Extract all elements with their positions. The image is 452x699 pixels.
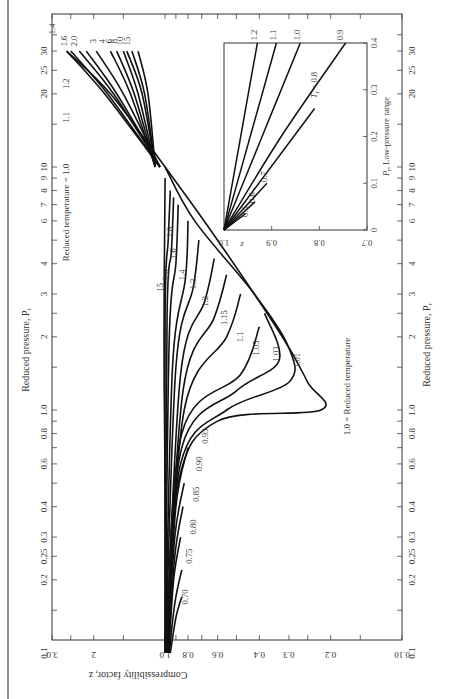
inset-z-tick-label: 1.0 bbox=[219, 238, 230, 248]
main-ylabel: Compressibility factor, z bbox=[88, 670, 187, 681]
left-pr-tick-label: 0.2 bbox=[39, 574, 49, 585]
curve-label: 0.75 bbox=[184, 549, 194, 564]
curve-label: 15 bbox=[155, 283, 165, 292]
left-pr-tick-label: 10 bbox=[39, 162, 49, 172]
z-tick-label: 0.6 bbox=[211, 650, 223, 660]
left-pr-tick-label: 9 bbox=[39, 175, 49, 180]
z-tick-label: 0.10 bbox=[394, 650, 410, 660]
right-pr-tick-label: 25 bbox=[407, 65, 417, 75]
high-pr-curve-label: 1.4 bbox=[47, 23, 57, 34]
high-pr-curve-label: 2.0 bbox=[69, 36, 79, 47]
inset-ylabel: z bbox=[239, 239, 244, 248]
tr-curve-1.2 bbox=[166, 259, 214, 653]
z-tick-label: 0.2 bbox=[325, 650, 336, 660]
right-pr-tick-label: 6 bbox=[407, 218, 417, 223]
z-tick-label: 0.8 bbox=[182, 650, 194, 660]
main-xlabel-right: Reduced pressure, Pr bbox=[421, 302, 434, 386]
high-pr-curve-label: 1.1 bbox=[61, 112, 71, 123]
high-pr-curve-label: 1.2 bbox=[61, 78, 71, 89]
left-pr-tick-label: 20 bbox=[39, 89, 49, 99]
curve-label: 0.70 bbox=[180, 590, 190, 605]
z-tick-label: 0.3 bbox=[283, 650, 295, 660]
right-pr-tick-label: 7 bbox=[407, 202, 417, 207]
left-pr-tick-label: 7 bbox=[39, 202, 49, 207]
low-t-annotation: 1.0 = Reduced temperature bbox=[342, 338, 352, 436]
inset-pr-tick-label: 0.4 bbox=[369, 37, 379, 48]
right-pr-tick-label: 20 bbox=[407, 89, 417, 99]
inset-curve-label: 0.9 bbox=[335, 30, 345, 41]
high-pr-curve-label: 1.6 bbox=[59, 36, 69, 47]
left-pr-tick-label: 0.4 bbox=[39, 501, 49, 513]
curve-label: 1.4 bbox=[177, 269, 187, 280]
inset-xlabel: Pr, Low-pressure range bbox=[381, 97, 392, 177]
left-pr-tick-label: 8 bbox=[39, 188, 49, 193]
curve-label: 1.01 bbox=[292, 353, 302, 368]
inset-z-tick-label: 0.7 bbox=[362, 238, 373, 248]
curve-label: 1.2 bbox=[200, 296, 210, 307]
inset-curve-label: 0.7 bbox=[259, 171, 269, 182]
curve-label: 1.8 bbox=[165, 227, 175, 238]
inset-pr-tick-label: 0.1 bbox=[369, 178, 379, 189]
left-pr-tick-label: 3 bbox=[39, 291, 49, 296]
inset-curve-label: 0.5 bbox=[240, 206, 250, 217]
curve-label: 0.95 bbox=[200, 429, 210, 444]
curve-label: 1.05 bbox=[251, 341, 261, 356]
main-xlabel-left: Reduced pressure, Pr bbox=[20, 307, 33, 391]
right-pr-tick-label: 0.6 bbox=[407, 458, 417, 470]
curve-label: 1.1 bbox=[235, 332, 245, 343]
left-pr-tick-label: 4 bbox=[39, 261, 49, 266]
inset-tr-annotation: Tr = 0.8 bbox=[309, 72, 320, 98]
curve-label: 2.0 bbox=[161, 270, 171, 281]
inset-low-pressure-plot: 1.00.90.80.700.10.20.30.4Pr, Low-pressur… bbox=[219, 30, 392, 248]
inset-pr-tick-label: 0.3 bbox=[369, 84, 379, 95]
left-pr-tick-label: 1.0 bbox=[39, 404, 49, 416]
right-pr-tick-label: 3 bbox=[407, 291, 417, 296]
z-tick-label: 2 bbox=[91, 650, 96, 660]
curve-label: 0.80 bbox=[188, 520, 198, 535]
right-pr-tick-label: 0.2 bbox=[407, 574, 417, 585]
high-pr-curve-label: 15 bbox=[122, 37, 132, 46]
curve-label: 1.6 bbox=[168, 248, 178, 259]
left-pr-tick-label: 2 bbox=[39, 335, 49, 340]
left-pr-tick-label: 0.6 bbox=[39, 458, 49, 470]
right-pr-tick-label: 0.4 bbox=[407, 501, 417, 513]
right-pr-tick-label: 9 bbox=[407, 175, 417, 180]
curve-label: 1.15 bbox=[219, 310, 229, 325]
left-pr-tick-label: 0.8 bbox=[39, 427, 49, 439]
inset-curve-label: 1.0 bbox=[292, 30, 302, 41]
curve-label: 1.03 bbox=[271, 347, 281, 362]
curve-label: 0.90 bbox=[194, 456, 204, 471]
inset-curve-label: 1.1 bbox=[268, 30, 278, 41]
inset-curve-label: 1.2 bbox=[249, 30, 259, 41]
z-tick-label: 3.0 bbox=[46, 650, 58, 660]
inset-z-tick-label: 0.9 bbox=[266, 238, 277, 248]
left-pr-tick-label: 30 bbox=[39, 46, 49, 56]
inset-curve-label: 0.6 bbox=[247, 192, 257, 203]
inset-pr-tick-label: 0.2 bbox=[369, 131, 379, 142]
left-pr-tick-label: 25 bbox=[39, 65, 49, 75]
inset-pr-tick-label: 0 bbox=[369, 228, 379, 232]
right-pr-tick-label: 8 bbox=[407, 188, 417, 193]
inset-z-tick-label: 0.8 bbox=[314, 238, 325, 248]
left-pr-tick-label: 6 bbox=[39, 218, 49, 223]
right-pr-tick-label: 0.3 bbox=[407, 531, 417, 543]
right-pr-tick-label: 0.8 bbox=[407, 427, 417, 439]
right-pr-tick-label: 10 bbox=[407, 162, 417, 172]
right-pr-tick-label: 30 bbox=[407, 46, 417, 56]
curve-label: 0.85 bbox=[191, 487, 201, 502]
curve-label: 1.3 bbox=[188, 279, 198, 290]
left-pr-tick-label: 0.3 bbox=[39, 531, 49, 543]
left-pr-tick-label: 0.25 bbox=[39, 548, 49, 564]
right-pr-tick-label: 0.25 bbox=[407, 548, 417, 564]
compressibility-chart: 0.10.10.20.20.250.250.30.30.40.40.60.60.… bbox=[0, 0, 452, 699]
right-pr-tick-label: 4 bbox=[407, 261, 417, 266]
z-tick-label: 0.4 bbox=[253, 650, 265, 660]
right-pr-tick-label: 1.0 bbox=[407, 404, 417, 416]
high-pr-annotation: Reduced temperature = 1.0 bbox=[61, 163, 71, 261]
right-pr-tick-label: 2 bbox=[407, 335, 417, 340]
